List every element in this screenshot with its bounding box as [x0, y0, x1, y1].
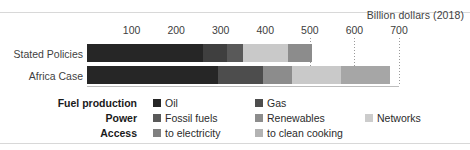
x-tick-label-200: 200	[167, 24, 185, 36]
bar-segment-renewables	[263, 66, 292, 84]
legend-item-fossil-fuels[interactable]: Fossil fuels	[153, 113, 218, 124]
legend-swatch-icon	[365, 114, 373, 122]
bar-segment-oil	[87, 66, 218, 84]
bar-segment-to-electricity	[288, 44, 313, 62]
legend-category-label: Power	[0, 112, 145, 124]
bar-segment-fossil-fuels	[227, 44, 243, 62]
legend-swatch-icon	[153, 99, 161, 107]
legend-category-label: Access	[0, 127, 145, 139]
x-tick-label-400: 400	[257, 24, 275, 36]
legend-item-label: to electricity	[165, 128, 220, 139]
legend-item-label: Networks	[377, 113, 421, 124]
legend-swatch-icon	[153, 114, 161, 122]
stacked-bar-chart: Billion dollars (2018) 10020030040050060…	[0, 0, 470, 150]
legend-item-label: Fossil fuels	[165, 113, 218, 124]
bar-segment-oil	[87, 44, 203, 62]
legend-row-access: Accessto electricityto clean cooking	[0, 126, 470, 140]
axis-baseline	[87, 86, 399, 87]
legend-item-label: to clean cooking	[267, 128, 343, 139]
legend-item-gas[interactable]: Gas	[255, 98, 286, 109]
legend-item-label: Renewables	[267, 113, 325, 124]
legend-swatch-icon	[255, 129, 263, 137]
axis-unit-title: Billion dollars (2018)	[0, 9, 464, 21]
legend-item-to-electricity[interactable]: to electricity	[153, 128, 220, 139]
bottom-divider	[0, 143, 470, 144]
legend-swatch-icon	[255, 114, 263, 122]
x-tick-label-300: 300	[212, 24, 230, 36]
bar-segment-gas	[203, 44, 228, 62]
x-tick-label-100: 100	[123, 24, 141, 36]
bar-africa-case	[87, 66, 390, 84]
bar-segment-networks	[292, 66, 341, 84]
legend-item-networks[interactable]: Networks	[365, 113, 421, 124]
x-tick-label-500: 500	[301, 24, 319, 36]
legend-item-oil[interactable]: Oil	[153, 98, 178, 109]
bar-segment-fossil-fuels	[218, 66, 263, 84]
legend-item-label: Oil	[165, 98, 178, 109]
bar-segment-networks	[243, 44, 288, 62]
legend-category-label: Fuel production	[0, 97, 145, 109]
legend-row-fuel-production: Fuel productionOilGas	[0, 96, 470, 110]
y-axis-category-labels: Stated PoliciesAfrica Case	[0, 38, 83, 86]
legend-swatch-icon	[255, 99, 263, 107]
row-label-stated-policies: Stated Policies	[14, 48, 83, 60]
legend-item-label: Gas	[267, 98, 286, 109]
x-tick-label-600: 600	[346, 24, 364, 36]
gridline-700	[399, 38, 400, 86]
row-label-africa-case: Africa Case	[29, 70, 83, 82]
bar-stated-policies	[87, 44, 312, 62]
x-axis-tick-labels: 100200300400500600700	[0, 24, 470, 38]
legend-item-renewables[interactable]: Renewables	[255, 113, 325, 124]
chart-legend: Fuel productionOilGasPowerFossil fuelsRe…	[0, 96, 470, 142]
legend-row-power: PowerFossil fuelsRenewablesNetworks	[0, 111, 470, 125]
bar-segment-to-clean-cooking	[341, 66, 390, 84]
legend-swatch-icon	[153, 129, 161, 137]
x-tick-label-700: 700	[390, 24, 408, 36]
legend-item-to-clean-cooking[interactable]: to clean cooking	[255, 128, 343, 139]
